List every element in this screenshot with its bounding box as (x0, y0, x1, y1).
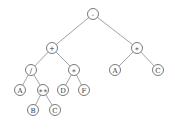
tree-node: + (47, 43, 58, 54)
tree-node: B (28, 105, 39, 116)
tree-edge (52, 14, 93, 48)
node-label: + (49, 45, 55, 53)
node-label: ∗ (135, 45, 140, 53)
node-label: A (111, 67, 118, 75)
node-label: ∗ (72, 67, 77, 75)
tree-node: - (88, 9, 99, 20)
tree-node: A (110, 65, 121, 76)
node-label: F (82, 87, 87, 95)
expression-tree-diagram: -+∗/∗ACA∗∗DFBC (0, 0, 175, 131)
node-label: A (16, 87, 23, 95)
node-label: D (60, 87, 66, 95)
tree-node: F (79, 85, 90, 96)
tree-node: C (153, 65, 164, 76)
nodes: -+∗/∗ACA∗∗DFBC (15, 9, 164, 116)
tree-node: ∗ (69, 65, 80, 76)
node-label: ∗∗ (38, 87, 48, 95)
tree-node: C (50, 105, 61, 116)
tree-node: / (26, 65, 37, 76)
tree-node: A (15, 85, 26, 96)
tree-edge (93, 14, 137, 48)
tree-node: ∗ (132, 43, 143, 54)
edges (20, 14, 158, 110)
tree-node: ∗∗ (38, 85, 49, 96)
node-label: B (30, 107, 35, 115)
tree-node: D (58, 85, 69, 96)
node-label: C (52, 107, 57, 115)
node-label: C (155, 67, 160, 75)
